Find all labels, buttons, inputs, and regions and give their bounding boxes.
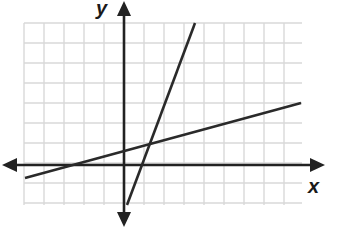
steep-line <box>127 23 195 205</box>
shallow-line <box>25 103 301 178</box>
coordinate-graph: y x <box>0 0 340 229</box>
x-axis-label: x <box>307 175 320 197</box>
y-axis-down-arrow-icon <box>117 212 131 227</box>
y-axis-up-arrow-icon <box>117 1 131 16</box>
x-axis-left-arrow-icon <box>2 158 17 172</box>
x-axis-right-arrow-icon <box>310 158 325 172</box>
y-axis-label: y <box>95 0 108 19</box>
